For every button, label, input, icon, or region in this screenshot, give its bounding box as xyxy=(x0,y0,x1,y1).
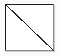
diagram-canvas xyxy=(0,0,60,56)
diagonal-line xyxy=(5,4,54,51)
rectangle-with-diagonal xyxy=(5,4,54,51)
diagonal-layer xyxy=(5,4,54,51)
